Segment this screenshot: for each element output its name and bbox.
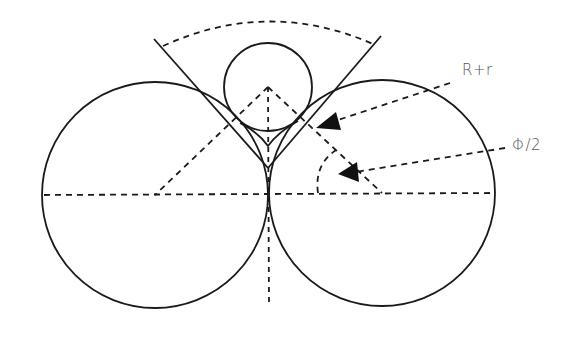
arrow-half-angle-shaft (355, 148, 505, 172)
horizontal-center-line (44, 193, 495, 195)
arrow-r-plus-r-shaft (332, 83, 450, 122)
arrow-r-plus-r-head (316, 112, 341, 130)
line-to-right-center (268, 87, 382, 193)
label-r-plus-r: R+r (462, 61, 493, 79)
tangent-circles-diagram (0, 0, 580, 337)
half-angle-arc (317, 150, 336, 193)
arrow-half-angle-head (338, 162, 359, 182)
label-half-angle: Φ/2 (512, 136, 541, 154)
